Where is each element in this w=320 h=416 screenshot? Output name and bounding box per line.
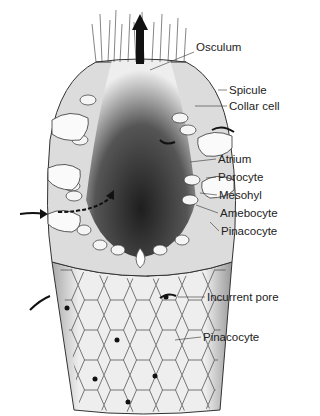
label-incurrent-pore: Incurrent pore [207, 291, 279, 303]
label-pinacocyte-lower: Pinacocyte [203, 331, 259, 343]
label-porocyte: Porocyte [218, 171, 263, 183]
label-osculum: Osculum [196, 41, 241, 53]
label-atrium: Atrium [218, 153, 251, 165]
upper-body-section [47, 60, 235, 276]
label-pinacocyte-upper: Pinacocyte [221, 225, 277, 237]
label-collar-cell: Collar cell [229, 100, 280, 112]
label-amebocyte: Amebocyte [220, 207, 278, 219]
label-spicule: Spicule [229, 84, 267, 96]
label-mesohyl: Mesohyl [219, 189, 262, 201]
